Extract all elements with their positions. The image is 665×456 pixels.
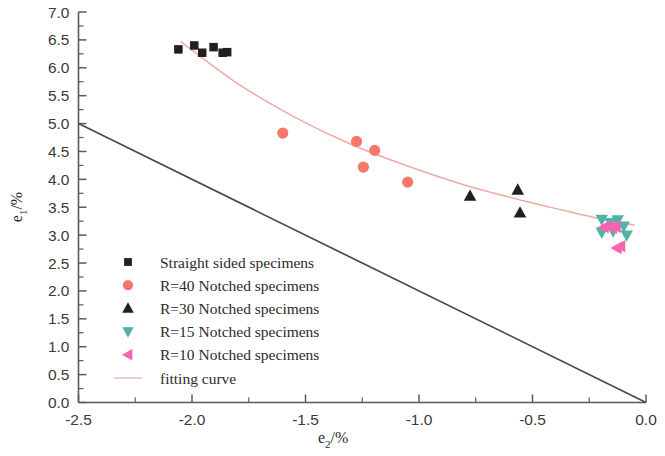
data-point: [277, 127, 288, 138]
legend-marker-triangle-left: [122, 349, 132, 361]
data-point: [358, 161, 369, 172]
data-point: [369, 145, 380, 156]
y-axis-ticks: [79, 12, 87, 403]
chart-legend: Straight sided specimensR=40 Notched spe…: [114, 254, 319, 387]
legend-label: R=30 Notched specimens: [160, 300, 319, 317]
legend-marker-circle: [123, 280, 133, 290]
data-point: [174, 45, 183, 54]
legend-label: R=40 Notched specimens: [160, 277, 319, 294]
chart-canvas: 0.00.51.01.52.02.53.03.54.04.55.05.56.06…: [0, 0, 665, 456]
y-tick-label: 7.0: [48, 4, 70, 21]
legend-label: Straight sided specimens: [160, 254, 314, 271]
y-tick-label: 6.5: [48, 31, 70, 48]
fitting-curve: [181, 42, 635, 226]
y-tick-label: 1.0: [48, 338, 70, 355]
data-point: [464, 189, 477, 200]
y-tick-label: 0.5: [48, 366, 70, 383]
data-point: [402, 177, 413, 188]
y-tick-label: 3.0: [48, 227, 70, 244]
y-axis-title: e1/%: [8, 192, 29, 222]
y-tick-label: 5.5: [48, 87, 70, 104]
y-tick-label: 0.0: [48, 394, 70, 411]
data-point: [514, 206, 527, 217]
legend-label: R=10 Notched specimens: [160, 346, 319, 363]
data-markers: [174, 41, 633, 254]
data-point: [223, 48, 232, 57]
y-tick-label: 6.0: [48, 59, 70, 76]
y-axis-title-unit: /%: [8, 192, 25, 210]
data-point: [190, 41, 199, 50]
x-axis-title: e2/%: [318, 429, 348, 450]
x-tick-label: -1.5: [292, 411, 319, 428]
y-tick-label: 4.0: [48, 171, 70, 188]
y-tick-label: 1.5: [48, 310, 70, 327]
legend-marker-triangle-down: [122, 327, 134, 337]
x-axis-tick-labels: -2.5-2.0-1.5-1.0-0.50.0: [65, 411, 657, 428]
y-tick-label: 5.0: [48, 115, 70, 132]
x-tick-label: 0.0: [635, 411, 657, 428]
legend-label: R=15 Notched specimens: [160, 323, 319, 340]
y-tick-label: 4.5: [48, 143, 70, 160]
legend-marker-square: [124, 258, 132, 266]
x-tick-label: -1.0: [406, 411, 433, 428]
data-point: [511, 183, 524, 194]
series-circle: [277, 127, 413, 187]
data-point: [209, 43, 218, 52]
x-tick-label: -2.0: [179, 411, 206, 428]
series-triangle-up: [464, 183, 526, 217]
x-tick-label: -2.5: [65, 411, 92, 428]
y-tick-label: 3.5: [48, 199, 70, 216]
x-axis-title-base: e: [318, 429, 325, 446]
x-axis-title-unit: /%: [331, 429, 349, 446]
data-point: [198, 48, 207, 57]
svg-text:e2/%: e2/%: [318, 429, 348, 450]
data-point: [351, 136, 362, 147]
y-axis-title-base: e: [8, 215, 25, 222]
svg-text:e1/%: e1/%: [8, 192, 29, 222]
chart-axes: [79, 12, 647, 403]
legend-marker-triangle-up: [122, 302, 134, 312]
y-tick-label: 2.0: [48, 282, 70, 299]
forming-limit-chart: 0.00.51.01.52.02.53.03.54.04.55.05.56.06…: [0, 0, 665, 456]
y-tick-label: 2.5: [48, 255, 70, 272]
x-tick-label: -0.5: [519, 411, 546, 428]
data-point: [620, 230, 633, 241]
x-axis-ticks: [79, 395, 647, 403]
legend-label: fitting curve: [160, 370, 236, 387]
y-axis-tick-labels: 0.00.51.01.52.02.53.03.54.04.55.05.56.06…: [48, 4, 70, 412]
